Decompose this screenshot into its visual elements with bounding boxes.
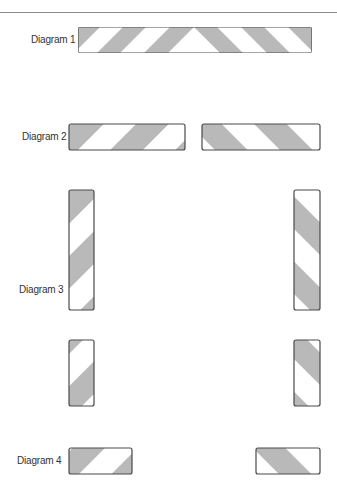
diagram-3-right-short-bar bbox=[294, 340, 320, 406]
diagram-3-left-tall-bar bbox=[69, 190, 94, 310]
diagram-4-left-bar bbox=[69, 448, 132, 474]
diagram-2-left-bar bbox=[69, 124, 185, 150]
diagram-3-right-tall-bar bbox=[294, 190, 320, 310]
diagram-1-chevron-bar bbox=[78, 27, 312, 53]
diagram-canvas bbox=[0, 0, 337, 492]
diagram-3-left-short-bar bbox=[69, 340, 94, 406]
diagram-2-right-bar bbox=[202, 124, 320, 150]
diagram-4-right-bar bbox=[256, 448, 320, 474]
